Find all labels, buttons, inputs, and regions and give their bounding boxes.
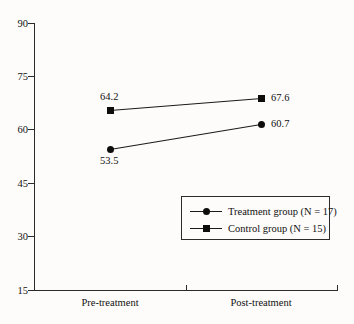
- x-tick-mid: [186, 285, 187, 291]
- circle-marker-icon: [190, 207, 222, 215]
- legend-entry-control-group: Control group (N = 15): [190, 221, 326, 235]
- y-tick-label-45: 45: [0, 178, 28, 189]
- y-tick-label-15: 15: [0, 285, 28, 296]
- treatment-group-marker-post: [258, 121, 265, 128]
- y-tick-label-90: 90: [0, 18, 28, 29]
- line-chart: 90 75 60 45 30 15 Pre-treatment Post-tre…: [0, 0, 354, 324]
- legend-label-control-group: Control group (N = 15): [228, 223, 326, 234]
- y-tick-30: [28, 236, 34, 237]
- data-label-treatment-post: 60.7: [271, 118, 289, 129]
- y-tick-label-75: 75: [0, 71, 28, 82]
- control-group-line: [110, 98, 261, 111]
- y-tick-label-30: 30: [0, 231, 28, 242]
- control-group-marker-post: [258, 95, 265, 102]
- y-axis-line: [34, 23, 35, 291]
- x-tick-label-pre-treatment: Pre-treatment: [81, 297, 138, 308]
- data-label-control-post: 67.6: [271, 92, 289, 103]
- y-tick-label-60: 60: [0, 124, 28, 135]
- x-tick-end: [337, 285, 338, 291]
- y-tick-45: [28, 183, 34, 184]
- square-marker-icon: [190, 224, 222, 232]
- legend-label-treatment-group: Treatment group (N = 17): [228, 206, 337, 217]
- x-tick-label-post-treatment: Post-treatment: [230, 297, 291, 308]
- data-label-control-pre: 64.2: [100, 91, 118, 102]
- y-tick-15: [28, 290, 34, 291]
- treatment-group-line: [110, 124, 261, 150]
- y-tick-60: [28, 129, 34, 130]
- legend-entry-treatment-group: Treatment group (N = 17): [190, 204, 337, 218]
- y-tick-90: [28, 23, 34, 24]
- treatment-group-marker-pre: [107, 146, 114, 153]
- legend: Treatment group (N = 17) Control group (…: [181, 196, 330, 240]
- y-tick-75: [28, 76, 34, 77]
- data-label-treatment-pre: 53.5: [100, 155, 118, 166]
- control-group-marker-pre: [107, 107, 114, 114]
